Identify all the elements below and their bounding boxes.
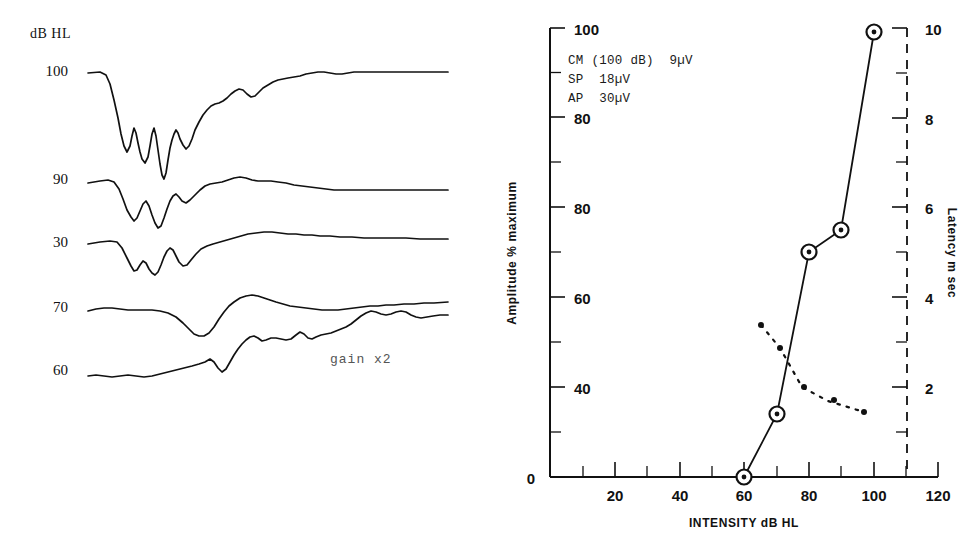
left-y-tick-label-80: 80 xyxy=(574,200,591,217)
right-y-tick-label-6: 6 xyxy=(925,200,933,217)
waveform-trace-70 xyxy=(88,295,448,336)
amplitude-point-100 xyxy=(867,25,882,40)
left-y-tick-label-80-top: 80 xyxy=(574,110,591,127)
right-y-tick-label-10: 10 xyxy=(925,21,942,38)
amplitude-point-90 xyxy=(834,223,849,238)
latency-series-line xyxy=(761,325,864,412)
amplitude-point-70 xyxy=(770,407,785,422)
waveform-trace-100 xyxy=(88,72,448,179)
latency-point-5 xyxy=(861,409,867,415)
ecochg-figure: dB HL 100 90 30 70 60 gain x2 CM (100 dB… xyxy=(0,0,973,536)
right-panel-chart: CM (100 dB) 9µV SP 18µV AP 30µV xyxy=(470,0,973,536)
right-y-axis-title: Latency m sec xyxy=(945,208,959,299)
amplitude-point-80 xyxy=(802,245,817,260)
left-y-tick-label-100: 100 xyxy=(574,21,599,38)
waveform-traces xyxy=(0,0,470,536)
io-function-plot: 100 80 60 40 80 80 0 xyxy=(470,0,973,536)
left-y-tick-label-60: 60 xyxy=(574,290,591,307)
x-tick-label-80: 80 xyxy=(801,487,818,504)
x-tick-label-40: 40 xyxy=(672,487,689,504)
amplitude-point-60 xyxy=(737,470,752,485)
right-y-tick-label-4: 4 xyxy=(925,290,934,307)
waveform-trace-60 xyxy=(88,311,448,377)
x-tick-label-20: 20 xyxy=(607,487,624,504)
x-tick-label-60: 60 xyxy=(736,487,753,504)
latency-point-2 xyxy=(777,345,783,351)
left-y-axis-title: Amplitude % maximum xyxy=(505,181,519,324)
x-axis-title: INTENSITY dB HL xyxy=(689,516,799,530)
left-panel-waveforms: dB HL 100 90 30 70 60 gain x2 xyxy=(0,0,470,536)
latency-point-4 xyxy=(831,397,837,403)
left-y-ticks xyxy=(550,28,565,477)
left-y-tick-label-0: 0 xyxy=(527,470,535,487)
latency-point-1 xyxy=(758,322,764,328)
latency-point-3 xyxy=(801,384,807,390)
right-y-ticks xyxy=(892,28,907,477)
waveform-trace-30 xyxy=(88,232,448,275)
x-tick-label-100: 100 xyxy=(861,487,886,504)
x-tick-label-120: 120 xyxy=(925,487,950,504)
waveform-trace-90 xyxy=(88,177,448,228)
left-y-tick-label-40: 40 xyxy=(574,380,591,397)
x-ticks xyxy=(583,462,938,477)
right-y-tick-label-8: 8 xyxy=(925,111,933,128)
right-y-tick-label-2: 2 xyxy=(925,380,933,397)
